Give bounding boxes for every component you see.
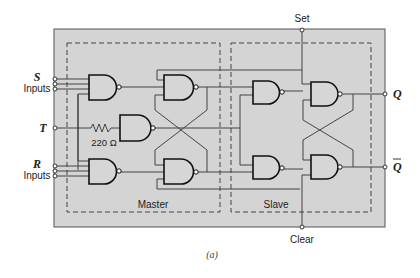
r-inputs-label: Inputs [23, 170, 50, 181]
s-input-3-terminal[interactable] [53, 87, 57, 91]
set-terminal[interactable] [300, 28, 304, 32]
r-input-1-terminal[interactable] [53, 164, 57, 168]
figure-caption: (a) [206, 249, 218, 261]
r-input-3-terminal[interactable] [53, 174, 57, 178]
t-label: T [39, 121, 47, 135]
master-slave-flip-flop-diagram: Set Clear S Inputs T R Inputs 220 Ω Q Q … [0, 0, 420, 278]
s-label: S [34, 70, 41, 84]
master-label: Master [138, 199, 169, 210]
q-label: Q [393, 87, 402, 101]
slave-label: Slave [263, 199, 288, 210]
s-inputs-label: Inputs [23, 83, 50, 94]
s-input-2-terminal[interactable] [53, 82, 57, 86]
qbar-terminal[interactable] [383, 165, 387, 169]
set-label: Set [294, 13, 309, 24]
clear-label: Clear [290, 234, 315, 245]
q-terminal[interactable] [383, 92, 387, 96]
r-label: R [32, 157, 41, 171]
r-input-2-terminal[interactable] [53, 169, 57, 173]
s-input-1-terminal[interactable] [53, 77, 57, 81]
qbar-label: Q [393, 160, 402, 174]
clear-terminal[interactable] [300, 225, 304, 229]
resistor-label: 220 Ω [91, 137, 117, 148]
t-terminal[interactable] [53, 126, 57, 130]
